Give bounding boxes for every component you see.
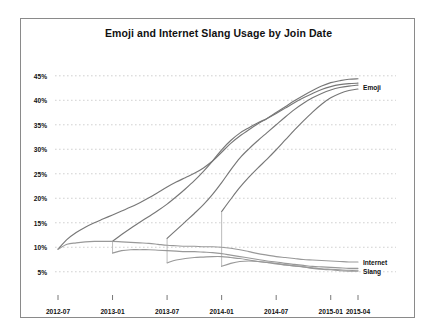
x-axis-tick-label: 2014-07 [254,308,298,315]
line-chart-plot [21,19,416,319]
series-label: Slang [363,267,381,274]
series-line [58,79,358,249]
chart-frame: Emoji and Internet Slang Usage by Join D… [20,18,415,318]
y-axis-tick-label: 30% [21,146,47,153]
y-axis-tick-label: 20% [21,195,47,202]
x-axis-tick-label: 2014-01 [200,308,244,315]
x-axis-tick-label: 2013-01 [91,308,135,315]
series-line [58,241,358,262]
y-axis-tick-label: 10% [21,244,47,251]
series-line [113,83,358,241]
y-axis-tick-label: 40% [21,97,47,104]
x-axis-tick-label: 2015-04 [336,308,380,315]
y-axis-tick-label: 15% [21,219,47,226]
y-axis-tick-label: 5% [21,268,47,275]
series-label: Internet [363,258,387,265]
series-line [222,89,358,211]
y-axis-tick-label: 35% [21,121,47,128]
y-axis-tick-label: 25% [21,170,47,177]
series-label: Emoji [363,83,381,90]
series-line [167,256,358,270]
y-axis-tick-label: 45% [21,72,47,79]
x-axis-tick-label: 2013-07 [145,308,189,315]
x-axis-tick-label: 2012-07 [36,308,80,315]
series-line [167,85,358,238]
series-line [113,250,358,269]
